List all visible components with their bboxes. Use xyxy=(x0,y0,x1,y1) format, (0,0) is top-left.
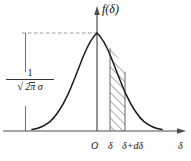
tick-label-delta: δ xyxy=(108,141,113,151)
fraction-numerator: 1 xyxy=(6,68,54,79)
origin-label: O xyxy=(91,141,98,151)
radicand-group: 2π xyxy=(23,82,35,92)
y-axis xyxy=(94,6,100,131)
sigma-symbol: σ xyxy=(38,81,43,92)
fraction-denominator: √2π σ xyxy=(6,80,54,92)
peak-ordinate-value: 1 √2π σ xyxy=(6,68,54,92)
tick-label-delta-plus-ddelta: δ+dδ xyxy=(122,141,143,151)
x-axis-label: δ xyxy=(178,141,183,151)
y-axis-label: f(δ) xyxy=(102,3,119,15)
figure-container: f(δ) O δ δ+dδ δ 1 √2π σ xyxy=(0,0,191,161)
vinculum xyxy=(29,82,35,83)
